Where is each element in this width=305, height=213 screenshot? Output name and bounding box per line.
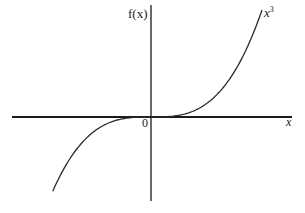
x-axis-label: x [286, 116, 291, 128]
x-axis-label-text: x [286, 115, 291, 129]
y-axis-label: f(x) [128, 7, 148, 20]
curve-label-exponent: 3 [270, 5, 274, 14]
y-axis-label-text: f(x) [128, 6, 148, 21]
graph-canvas [0, 0, 305, 213]
origin-label-text: 0 [142, 116, 148, 130]
origin-label: 0 [142, 117, 148, 129]
curve-label: x3 [264, 6, 274, 19]
cubic-function-graph: f(x) x3 x 0 [0, 0, 305, 213]
cubic-curve [53, 10, 262, 191]
